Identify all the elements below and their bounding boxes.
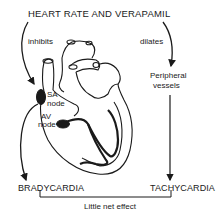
sa-to-bradycardia-arrow [21, 104, 38, 180]
sa-node-label-line2: node [47, 100, 65, 108]
peripheral-label-line2: vessels [153, 82, 180, 90]
tachycardia-label: TACHYCARDIA [150, 184, 215, 193]
sa-node-mass [37, 90, 46, 105]
inhibits-arrow [22, 22, 34, 84]
net-effect-label: Little net effect [84, 203, 136, 211]
dilates-label: dilates [140, 38, 163, 46]
diagram-title: HEART RATE AND VERAPAMIL [28, 9, 170, 19]
inhibits-label: inhibits [28, 38, 53, 46]
dilates-arrow [163, 22, 172, 66]
peripheral-label-line1: Peripheral [150, 72, 186, 80]
sa-node-label-line1: SA [47, 91, 58, 99]
bradycardia-label: BRADYCARDIA [18, 184, 84, 193]
av-node-label-line2: node [38, 121, 56, 129]
